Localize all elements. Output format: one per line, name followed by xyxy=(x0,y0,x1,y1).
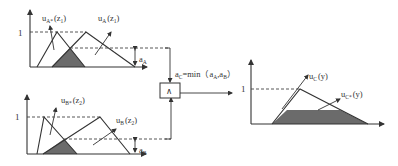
min-formula-label: aC=min（aA,aB） xyxy=(175,69,236,80)
min-operator-symbol: ∧ xyxy=(166,86,172,96)
panel-b-set-pointer xyxy=(93,129,116,145)
panel-b-alpha-label: aB xyxy=(139,145,147,156)
panel-b-shaded-region xyxy=(43,139,77,154)
panel-a-y-tick: 1 xyxy=(18,28,23,38)
panel-c: 1 uC(y) uC*(y) xyxy=(241,60,384,124)
panel-c-star-label: uC*(y) xyxy=(341,89,363,100)
min-operator-node: ∧ aC=min（aA,aB） xyxy=(160,69,236,98)
panel-c-set-pointer xyxy=(282,75,308,109)
panel-a-set-label: uA(z1) xyxy=(98,13,120,24)
panel-a-set-pointer xyxy=(95,32,111,55)
panel-a: 1 uA*(z1) uA(z1) aA xyxy=(18,10,170,67)
panel-a-shaded-region xyxy=(52,48,85,67)
panel-b: 1 uB*(z2) uB(z2) aB xyxy=(15,95,171,156)
panel-a-alpha-label: aA xyxy=(139,54,147,65)
connector-a-to-min xyxy=(165,48,170,82)
panel-b-star-label: uB*(z2) xyxy=(61,95,85,106)
panel-b-star-pointer xyxy=(50,108,56,135)
panel-c-set-label: uC(y) xyxy=(309,71,328,82)
panel-a-star-label: uA*(z1) xyxy=(42,13,66,24)
fuzzy-inference-diagram: 1 uA*(z1) uA(z1) aA 1 uB*(z2) uB(z2) aB xyxy=(0,0,398,166)
connector-b-to-min xyxy=(165,98,171,139)
panel-b-y-tick: 1 xyxy=(15,112,20,122)
panel-b-set-label: uB(z2) xyxy=(116,115,137,126)
panel-c-y-tick: 1 xyxy=(241,84,246,94)
